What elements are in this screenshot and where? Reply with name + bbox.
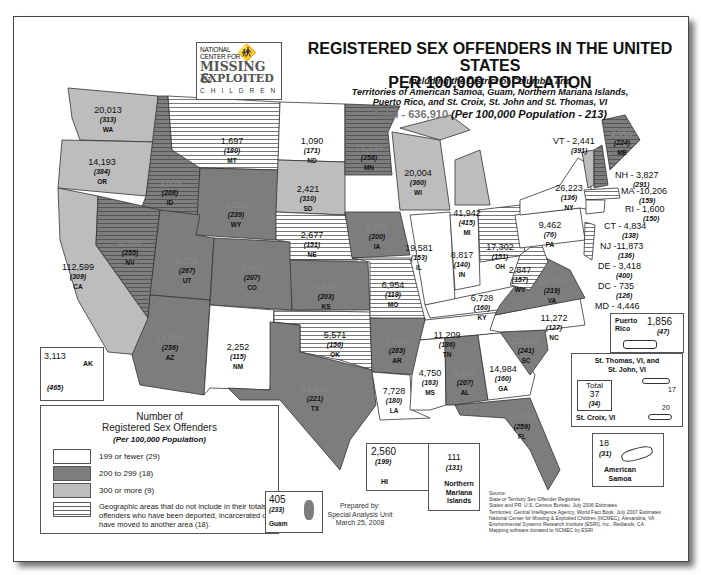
label-CA: 112,599(309)CA <box>62 262 94 292</box>
label-KS: 5,665(203)KS <box>315 282 338 312</box>
title-line1: REGISTERED SEX OFFENDERS IN THE UNITED S… <box>300 40 680 74</box>
label-TX: 51,898(221)TX <box>301 384 329 414</box>
source-notes: Source: State or Territory Sex Offender … <box>489 490 679 533</box>
label-NM: 2,252(115)NM <box>227 342 250 372</box>
legend-item-low: 199 or fewer (29) <box>53 449 160 464</box>
label-KY: 6,728(160)KY <box>471 293 494 323</box>
inset-alaska: 3,113 AK (465) <box>40 347 104 401</box>
label-WI: 20,004(360)WI <box>404 168 432 198</box>
label-AR: 7,959(283)AR <box>386 336 409 366</box>
legend-item-hatched: Geographic areas that do not include in … <box>53 502 269 528</box>
callout-NJ: NJ -11,873(136) <box>600 241 643 261</box>
label-LA: 7,728(180)LA <box>383 386 406 416</box>
label-AL: 9,540(207)AL <box>454 368 477 398</box>
total-line: Total - 636,910 (Per 100,000 Population … <box>300 108 680 120</box>
legend-title-2: Registered Sex Offenders <box>102 422 217 433</box>
ak-count: 3,113 <box>44 351 66 361</box>
legend-title-1: Number of <box>136 411 183 422</box>
label-IN: 8,817(140)IN <box>451 250 474 280</box>
label-NY: 26,223(136)NY <box>555 183 583 213</box>
label-MT: 1,697(180)MT <box>221 136 244 166</box>
inset-puerto-rico: PuertoRico 1,856 (47) <box>610 313 684 353</box>
prepared-by: Prepared by: Special Analysis Unit March… <box>320 502 400 528</box>
label-FL: 46,939(259)FL <box>508 412 536 442</box>
label-NC: 11,272(127)NC <box>541 313 568 343</box>
state-CT <box>586 200 605 214</box>
label-IL: 19,581(153)IL <box>405 243 433 273</box>
label-MS: 4,750(163)MS <box>419 368 442 398</box>
subtitle-line1: Including the District of Columbia and <box>300 76 680 87</box>
label-NE: 2,677(151)NE <box>301 230 324 260</box>
callout-DE: DE - 3,418(400) <box>598 261 641 281</box>
label-TN: 11,209(186)TN <box>434 330 461 360</box>
label-ND: 1,090(171)ND <box>301 136 324 166</box>
label-WA: 20,013(313)WA <box>94 105 122 135</box>
label-VA: 15,720(219)VA <box>538 276 566 306</box>
legend-item-high: 300 or more (9) <box>53 483 154 498</box>
vi-total-box: Total37(34) <box>577 380 612 411</box>
label-PA: 9,462(76)PA <box>539 220 562 250</box>
label-SC: 10,430(241)SC <box>512 336 540 366</box>
samoa-shape <box>620 444 654 464</box>
label-GA: 14,984(160)GA <box>489 364 517 394</box>
inset-american-samoa: 18 (31) AmericanSamoa <box>592 433 664 487</box>
label-MN: 13,349(258)MN <box>355 143 383 173</box>
callout-VT: VT - 2,441(391) <box>553 136 595 156</box>
ncmec-logo: NATIONALCENTER FOR 🚸 MISSING & EXPLOITED… <box>196 42 282 100</box>
label-OR: 14,193(384)OR <box>88 157 116 187</box>
total-count: Total - 636,910 <box>373 108 448 120</box>
label-UT: 6,796(267)UT <box>176 256 199 286</box>
ak-code: AK <box>83 360 93 367</box>
puerto-rico-shape <box>623 340 657 349</box>
label-NV: 6,366(255)NV <box>119 238 142 268</box>
label-OK: 5,571(156)OK <box>324 330 347 360</box>
label-WY: 1,229(239)WY <box>225 200 248 230</box>
label-AZ: 14,559(236)AZ <box>156 333 184 363</box>
label-CO: 9,860(207)CO <box>241 263 264 293</box>
state-NJ <box>584 222 595 260</box>
logo-exploited: EXPLOITED <box>200 73 274 85</box>
legend: Number ofRegistered Sex Offenders (Per 1… <box>40 405 279 534</box>
total-rate: (Per 100,000 Population - 213) <box>451 108 607 120</box>
label-SD: 2,421(310)SD <box>297 184 320 214</box>
inset-northern-mariana: 111 (131) NorthernMarianaIslands <box>428 443 480 511</box>
label-IA: 5,951(200)IA <box>366 222 389 252</box>
inset-virgin-islands: St. Thomas, VI, andSt. John, VI Total37(… <box>571 353 683 427</box>
legend-item-mid: 200 to 299 (18) <box>53 466 153 481</box>
st-thomas-shape <box>642 378 670 384</box>
state-NH <box>594 145 608 188</box>
callout-MA: MA -10,206(159) <box>621 186 667 206</box>
callout-DC: DC - 735(126) <box>598 281 634 301</box>
ak-rate: (465) <box>47 384 63 391</box>
inset-guam: 405 (233) Guam <box>265 491 323 533</box>
guam-shape <box>304 500 314 520</box>
legend-subtitle: (Per 100,000 Population) <box>41 435 278 444</box>
logo-line1: NATIONAL <box>200 46 230 53</box>
inset-hawaii: 2,560 (199) HI <box>366 443 432 491</box>
label-MI: 41,942(415)MI <box>453 208 481 238</box>
st-croix-shape <box>648 414 672 420</box>
map-subtitle: Including the District of Columbia and T… <box>300 76 680 108</box>
label-ME: 2,965(224)ME <box>611 128 634 158</box>
label-MO: 6,954(119)MO <box>382 280 405 310</box>
subtitle-line2: Territories of American Samoa, Guam, Nor… <box>300 87 680 98</box>
logo-children: CHILDREN <box>200 87 281 94</box>
label-WV: 2,847(157)WV <box>509 265 532 295</box>
callout-CT: CT - 4,834(138) <box>604 221 646 241</box>
label-ID: 3,059(208)ID <box>159 178 182 208</box>
subtitle-line3: Puerto Rico, and St. Croix, St. John and… <box>300 97 680 108</box>
